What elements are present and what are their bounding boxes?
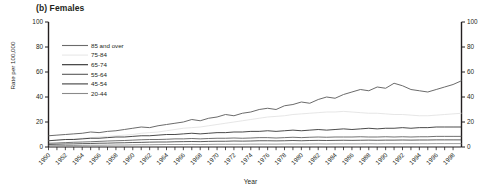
y-tick-label-left: 40 [36,93,44,100]
y-tick-label-left: 60 [36,68,44,75]
y-tick-label-left: 20 [36,118,44,125]
line-chart: 0020204040606080801001001950195219541956… [0,0,501,195]
x-tick-label: 1952 [54,151,69,166]
y-tick-label-left: 100 [32,18,43,25]
x-tick-label: 1976 [256,151,271,166]
legend-label: 55-64 [91,71,107,78]
legend-label: 85 and over [91,42,124,49]
x-tick-label: 1992 [391,151,406,166]
x-tick-label: 1954 [70,151,85,166]
x-tick-label: 1964 [155,151,170,166]
legend-label: 20-44 [91,90,107,97]
series-line [49,127,462,141]
x-tick-label: 1984 [323,151,338,166]
x-tick-label: 1990 [374,151,389,166]
x-tick-label: 1950 [37,151,52,166]
y-tick-label-left: 80 [36,43,44,50]
y-tick-label-right: 20 [467,118,475,125]
x-tick-label: 1980 [290,151,305,166]
legend-label: 65-74 [91,61,107,68]
x-tick-label: 1962 [138,151,153,166]
series-line [49,111,462,140]
x-tick-label: 1978 [273,151,288,166]
y-tick-label-right: 0 [467,143,471,150]
x-tick-label: 1998 [441,151,456,166]
x-tick-label: 1960 [121,151,136,166]
x-tick-label: 1968 [188,151,203,166]
x-tick-label: 1986 [340,151,355,166]
x-tick-label: 1972 [222,151,237,166]
x-tick-label: 1970 [205,151,220,166]
x-tick-label: 1988 [357,151,372,166]
x-tick-label: 1982 [306,151,321,166]
legend-label: 45-54 [91,80,107,87]
x-tick-label: 1966 [172,151,187,166]
x-tick-label: 1956 [87,151,102,166]
x-tick-label: 1996 [424,151,439,166]
y-tick-label-right: 40 [467,93,475,100]
y-tick-label-right: 100 [467,18,478,25]
x-tick-label: 1974 [239,151,254,166]
legend-label: 75-84 [91,51,107,58]
series-line [49,144,462,146]
y-tick-label-right: 60 [467,68,475,75]
y-tick-label-left: 0 [39,143,43,150]
chart-panel: (b) Females Rate per 100,000 Year 002020… [0,0,501,195]
x-tick-label: 1958 [104,151,119,166]
y-tick-label-right: 80 [467,43,475,50]
x-tick-label: 1994 [408,151,423,166]
